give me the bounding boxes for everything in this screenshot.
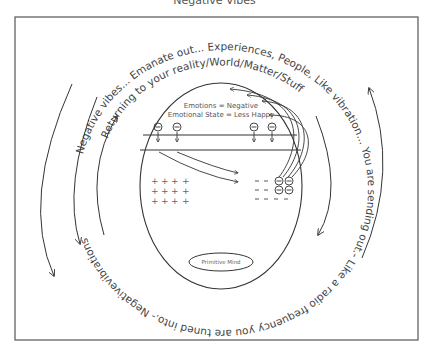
svg-text:+: + <box>171 186 179 196</box>
inner-arc-text-path: Returning to your reality/World/Matter/S… <box>98 55 306 139</box>
svg-text:+: + <box>151 186 159 196</box>
negative-particles-right <box>255 177 293 199</box>
positive-particles: ++++ ++++ ++++ <box>151 176 190 206</box>
emotional-state-label: Emotional State = Less Happy <box>168 111 274 119</box>
negative-particle <box>268 123 276 142</box>
negative-particle <box>250 123 258 142</box>
inner-arc-text: Returning to your reality/World/Matter/S… <box>98 55 306 139</box>
emotions-label: Emotions = Negative <box>184 102 258 110</box>
svg-text:+: + <box>151 176 159 186</box>
right-inner-arrow <box>316 116 331 235</box>
svg-text:+: + <box>182 176 190 186</box>
svg-text:+: + <box>161 176 169 186</box>
svg-text:+: + <box>171 176 179 186</box>
left-outer-arrow <box>41 84 72 276</box>
negative-particles-top <box>154 123 276 142</box>
svg-text:+: + <box>161 196 169 206</box>
svg-text:+: + <box>182 196 190 206</box>
svg-text:+: + <box>182 186 190 196</box>
svg-text:+: + <box>161 186 169 196</box>
svg-text:Returning to your reality/Worl: Returning to your reality/World/Matter/S… <box>98 55 306 139</box>
primitive-mind-label: Primitive Mind <box>201 259 240 265</box>
negative-particle <box>173 123 181 142</box>
outer-arc-text: Negative vibes... Emanate out... Experie… <box>73 40 378 340</box>
diagram-canvas: Negative vibes... Emanate out... Experie… <box>0 0 429 357</box>
svg-text:+: + <box>151 196 159 206</box>
outer-arc-text-path: Negative vibes... Emanate out... Experie… <box>73 40 378 340</box>
svg-text:+: + <box>171 196 179 206</box>
svg-text:Negative vibes... Emanate out.: Negative vibes... Emanate out... Experie… <box>73 40 378 340</box>
left-arrows <box>41 84 117 276</box>
